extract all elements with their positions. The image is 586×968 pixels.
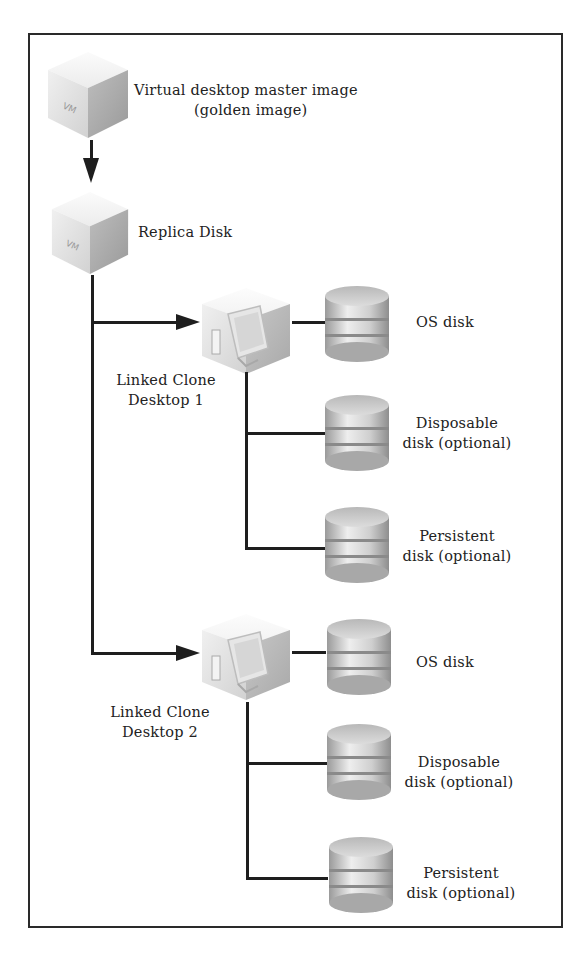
master-image-label: Virtual desktop master image (golden ima… — [134, 80, 358, 120]
linked-clone-1-label-line2: Desktop 1 — [100, 390, 232, 410]
clone-2-os-disk-icon — [325, 617, 393, 697]
arrowhead-down-icon — [83, 158, 99, 183]
clone-1-disposable-disk-icon — [323, 393, 391, 473]
clone-2-disposable-disk-label-line1: Disposable — [394, 752, 524, 772]
linked-clone-2-label-line1: Linked Clone — [94, 702, 226, 722]
master-image-label-line2: (golden image) — [134, 100, 358, 120]
clone-2-os-disk-label-line1: OS disk — [400, 652, 490, 672]
connector-master-to-replica — [90, 140, 93, 160]
clone-2-persistent-disk-label-line1: Persistent — [396, 863, 526, 883]
linked-clone-1-label-line1: Linked Clone — [100, 370, 232, 390]
connector-clone-2-subtrunk — [246, 702, 249, 880]
clone-2-persistent-disk-label: Persistent disk (optional) — [396, 863, 526, 903]
connector-to-clone-1 — [91, 321, 183, 324]
replica-disk-vm-cube-icon: VM — [50, 188, 130, 276]
connector-clone-1-subtrunk — [245, 372, 248, 550]
master-image-vm-cube-icon: VM — [46, 48, 130, 140]
linked-clone-2-label: Linked Clone Desktop 2 — [94, 702, 226, 742]
clone-1-disposable-disk-label-line1: Disposable — [392, 413, 522, 433]
clone-2-disposable-disk-label: Disposable disk (optional) — [394, 752, 524, 792]
connector-replica-trunk — [91, 275, 94, 655]
clone-1-disposable-disk-label-line2: disk (optional) — [392, 433, 522, 453]
linked-clone-2-desktop-cube-icon — [198, 612, 294, 702]
clone-2-os-disk-label: OS disk — [400, 652, 490, 672]
master-image-label-line1: Virtual desktop master image — [134, 80, 358, 100]
arrowhead-right-icon — [176, 645, 200, 661]
clone-1-os-disk-label-line1: OS disk — [400, 312, 490, 332]
clone-1-persistent-disk-label-line1: Persistent — [392, 526, 522, 546]
clone-1-disposable-disk-label: Disposable disk (optional) — [392, 413, 522, 453]
linked-clone-1-desktop-cube-icon — [198, 286, 294, 376]
connector-clone-2-to-os-disk — [292, 651, 326, 654]
clone-1-persistent-disk-label: Persistent disk (optional) — [392, 526, 522, 566]
linked-clone-2-label-line2: Desktop 2 — [94, 722, 226, 742]
clone-2-persistent-disk-icon — [327, 835, 395, 915]
connector-clone-1-to-persistent-disk — [245, 547, 327, 550]
clone-2-disposable-disk-icon — [325, 722, 393, 802]
clone-2-persistent-disk-label-line2: disk (optional) — [396, 883, 526, 903]
clone-1-os-disk-label: OS disk — [400, 312, 490, 332]
clone-2-disposable-disk-label-line2: disk (optional) — [394, 772, 524, 792]
connector-to-clone-2 — [91, 652, 183, 655]
clone-1-persistent-disk-label-line2: disk (optional) — [392, 546, 522, 566]
linked-clone-1-label: Linked Clone Desktop 1 — [100, 370, 232, 410]
replica-disk-label: Replica Disk — [138, 222, 232, 242]
arrowhead-right-icon — [176, 314, 200, 330]
connector-clone-1-to-disposable-disk — [245, 432, 327, 435]
diagram-frame — [28, 33, 563, 928]
connector-clone-2-to-disposable-disk — [246, 762, 328, 765]
clone-1-os-disk-icon — [323, 284, 391, 364]
connector-clone-2-to-persistent-disk — [246, 877, 328, 880]
clone-1-persistent-disk-icon — [323, 505, 391, 585]
connector-clone-1-to-os-disk — [292, 321, 326, 324]
